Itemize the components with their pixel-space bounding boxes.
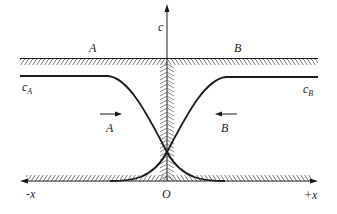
curve-cA (20, 76, 225, 181)
flux-arrow-B (215, 112, 237, 117)
conc-right-label: cB (303, 82, 313, 98)
diffusion-couple-diagram: c A B cA cB A B -x O +x (0, 0, 337, 214)
region-right-label: B (234, 41, 242, 55)
axis-x-neg-label: -x (26, 187, 36, 201)
arrow-left-icon (215, 112, 222, 117)
arrow-right-icon (310, 179, 318, 184)
flux-right-label: B (221, 121, 229, 135)
flux-left-label: A (105, 121, 114, 135)
arrow-left-icon (20, 179, 28, 184)
region-left-label: A (88, 41, 97, 55)
flux-arrow-A (100, 112, 122, 117)
top-boundary (20, 59, 318, 66)
arrow-up-icon (165, 4, 170, 12)
conc-left-label: cA (22, 80, 32, 96)
axis-y-label: c (158, 20, 164, 34)
axis-x-pos-label: +x (304, 188, 318, 202)
x-axis (20, 175, 318, 184)
origin-label: O (162, 187, 171, 201)
arrow-right-icon (115, 112, 122, 117)
curve-cB (110, 77, 318, 181)
